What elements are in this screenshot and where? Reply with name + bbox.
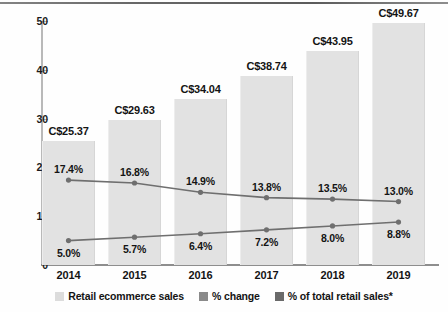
chart-legend: Retail ecommerce sales % change % of tot…: [0, 290, 448, 302]
data-point-marker[interactable]: [396, 219, 401, 224]
percent-of-total-label-2017: 7.2%: [234, 236, 300, 248]
legend-swatch-icon: [55, 292, 64, 301]
percent-of-total-label-2018: 8.0%: [300, 232, 366, 244]
data-point-marker[interactable]: [396, 199, 401, 204]
data-point-marker[interactable]: [264, 227, 269, 232]
percent-of-total-label-2014: 5.0%: [36, 247, 102, 259]
data-point-marker[interactable]: [66, 177, 71, 182]
percent-change-label-2014: 17.4%: [36, 163, 102, 175]
data-point-marker[interactable]: [264, 195, 269, 200]
percent-of-total-label-2016: 6.4%: [168, 240, 234, 252]
data-point-marker[interactable]: [198, 190, 203, 195]
data-point-marker[interactable]: [198, 231, 203, 236]
data-point-marker[interactable]: [330, 197, 335, 202]
data-point-marker[interactable]: [132, 180, 137, 185]
data-point-marker[interactable]: [132, 235, 137, 240]
legend-item-retail-ecommerce-sales[interactable]: Retail ecommerce sales: [55, 290, 184, 302]
x-axis-label-2017: 2017: [234, 269, 299, 281]
legend-item-percent-of-total-retail-sales[interactable]: % of total retail sales*: [275, 290, 393, 302]
percent-change-label-2018: 13.5%: [300, 182, 366, 194]
x-axis-label-2016: 2016: [168, 269, 233, 281]
legend-label: % of total retail sales*: [288, 290, 393, 302]
plot-area: 50 40 30 20 10 0 C$25.37C$29.63C$34.04C$…: [0, 0, 448, 312]
x-axis-label-2018: 2018: [300, 269, 365, 281]
percent-change-label-2019: 13.0%: [366, 185, 432, 197]
x-axis-label-2019: 2019: [366, 269, 431, 281]
percent-of-total-label-2019: 8.8%: [366, 228, 432, 240]
chart-container: 50 40 30 20 10 0 C$25.37C$29.63C$34.04C$…: [0, 0, 448, 312]
x-axis-label-2014: 2014: [36, 269, 101, 281]
data-point-marker[interactable]: [66, 238, 71, 243]
legend-swatch-icon: [199, 292, 208, 301]
legend-label: Retail ecommerce sales: [68, 290, 184, 302]
percent-change-label-2017: 13.8%: [234, 181, 300, 193]
legend-item-percent-change[interactable]: % change: [199, 290, 260, 302]
legend-swatch-icon: [275, 292, 284, 301]
percent-change-label-2015: 16.8%: [102, 166, 168, 178]
x-axis-label-2015: 2015: [102, 269, 167, 281]
percent-change-label-2016: 14.9%: [168, 175, 234, 187]
legend-label: % change: [212, 290, 260, 302]
percent-of-total-label-2015: 5.7%: [102, 243, 168, 255]
line-series-layer: [0, 0, 448, 312]
data-point-marker[interactable]: [330, 223, 335, 228]
